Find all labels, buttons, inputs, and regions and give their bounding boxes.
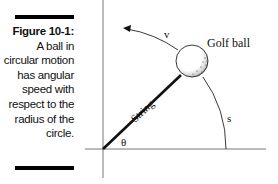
velocity-label: v	[164, 28, 170, 40]
circular-motion-diagram: Golf ball String v s θ	[0, 0, 278, 184]
arc-path-s	[203, 77, 226, 149]
velocity-arc	[127, 29, 178, 50]
arrow-head-icon	[123, 25, 131, 32]
golf-ball-icon	[176, 45, 208, 77]
angle-theta-label: θ	[121, 136, 126, 148]
arc-length-label: s	[227, 112, 231, 124]
golf-ball-label: Golf ball	[207, 36, 251, 50]
